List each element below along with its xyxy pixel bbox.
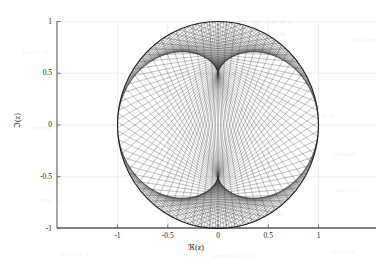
- y-tick-label: -0.5: [12, 172, 52, 181]
- x-tick-label: 1: [299, 231, 339, 240]
- x-tick-label: 0.5: [248, 231, 288, 240]
- y-axis-label: ℑ(z): [13, 91, 22, 151]
- x-axis-label: ℜ(z): [0, 243, 392, 252]
- x-tick-label: 0: [198, 231, 238, 240]
- figure-container: for the case of ain the complex plane an…: [0, 0, 392, 268]
- complex-plane-plot: [0, 0, 392, 268]
- y-tick-label: 1: [12, 17, 52, 26]
- y-tick-label: 0.5: [12, 68, 52, 77]
- y-tick-label: -1: [12, 224, 52, 233]
- x-tick-label: -1: [98, 231, 138, 240]
- x-tick-label: -0.5: [148, 231, 188, 240]
